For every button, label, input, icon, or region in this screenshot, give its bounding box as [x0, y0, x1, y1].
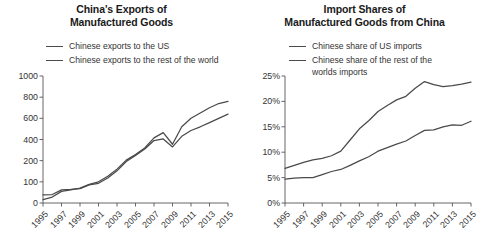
plot-area-exports: 0100200400600800100019951997199920012003… [0, 0, 243, 247]
data-series-line [285, 82, 471, 169]
data-series-line [285, 121, 471, 179]
dual-chart-figure: China's Exports of Manufactured Goods Ch… [0, 0, 486, 247]
y-axis-tick-label: 10% [262, 147, 280, 157]
panel-import-shares: Import Shares of Manufactured Goods from… [243, 0, 486, 247]
y-axis-tick-label: 25% [262, 71, 280, 81]
y-axis-tick-label: 200 [23, 156, 38, 166]
panel-exports: China's Exports of Manufactured Goods Ch… [0, 0, 243, 247]
y-axis-tick-label: 1000 [18, 71, 38, 81]
data-series-line [43, 101, 228, 199]
y-axis-tick-label: 400 [23, 135, 38, 145]
plot-svg-exports [0, 0, 243, 247]
plot-area-import-shares: 0%5%10%15%20%25%199519971999200120032005… [243, 0, 486, 247]
y-axis-tick-label: 100 [23, 177, 38, 187]
y-axis-tick-label: 15% [262, 122, 280, 132]
y-axis-tick-label: 800 [23, 92, 38, 102]
y-axis-tick-label: 5% [267, 173, 280, 183]
y-axis-tick-label: 600 [23, 113, 38, 123]
y-axis-tick-label: 0% [267, 198, 280, 208]
y-axis-tick-label: 20% [262, 96, 280, 106]
y-axis-tick-label: 0 [33, 198, 38, 208]
